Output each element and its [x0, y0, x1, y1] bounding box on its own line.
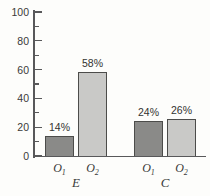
y-tick-label: 100 — [0, 6, 29, 18]
y-minor-tick — [34, 55, 39, 56]
y-minor-tick — [34, 112, 39, 113]
y-tick-label: 0 — [0, 150, 29, 162]
bar-E-O1 — [45, 136, 74, 156]
y-major-tick — [34, 98, 42, 99]
category-base: O — [53, 161, 62, 175]
category-base: O — [142, 161, 151, 175]
y-minor-tick — [34, 26, 39, 27]
category-base: O — [175, 161, 184, 175]
bar-value-label: 26% — [161, 104, 202, 116]
y-tick-label: 20 — [0, 121, 29, 133]
bar-chart: 02040608010014%O158%O2E24%O126%O2C — [0, 0, 210, 196]
group-label-E: E — [56, 176, 96, 190]
bar-value-label: 58% — [72, 57, 113, 69]
bar-E-O2 — [78, 72, 107, 156]
y-minor-tick — [34, 141, 39, 142]
y-tick-label: 40 — [0, 92, 29, 104]
y-major-tick — [34, 11, 42, 12]
y-major-tick — [34, 69, 42, 70]
bar-C-O1 — [134, 121, 163, 156]
y-major-tick — [34, 40, 42, 41]
y-minor-tick — [34, 83, 39, 84]
bar-C-O2 — [167, 119, 196, 156]
category-base: O — [86, 161, 95, 175]
y-tick-label: 80 — [0, 35, 29, 47]
group-label-C: C — [145, 176, 185, 190]
y-tick-label: 60 — [0, 64, 29, 76]
y-major-tick — [34, 155, 42, 156]
bar-value-label: 14% — [39, 121, 80, 133]
